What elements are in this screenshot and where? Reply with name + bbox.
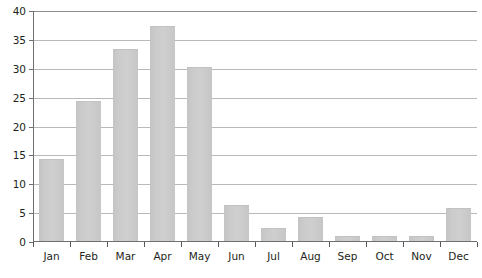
bar-chart: 0510152025303540 JanFebMarAprMayJunJulAu…	[0, 0, 482, 278]
y-axis-label-5: 5	[0, 208, 26, 219]
x-tick-10	[403, 242, 404, 247]
y-axis-label-40: 40	[0, 6, 26, 17]
x-tick-11	[440, 242, 441, 247]
y-axis-label-10: 10	[0, 179, 26, 190]
x-tick-1	[70, 242, 71, 247]
plot-area	[33, 11, 477, 242]
y-axis-label-0: 0	[0, 237, 26, 248]
x-axis: JanFebMarAprMayJunJulAugSepOctNovDec	[33, 242, 477, 278]
x-tick-4	[181, 242, 182, 247]
x-axis-label-jan: Jan	[43, 251, 59, 262]
x-tick-12	[477, 242, 478, 247]
x-axis-label-sep: Sep	[338, 251, 358, 262]
x-tick-3	[144, 242, 145, 247]
x-axis-label-oct: Oct	[375, 251, 393, 262]
x-tick-6	[255, 242, 256, 247]
x-tick-0	[33, 242, 34, 247]
y-axis-label-25: 25	[0, 93, 26, 104]
y-axis-label-20: 20	[0, 122, 26, 133]
x-axis-label-aug: Aug	[300, 251, 321, 262]
y-axis-line	[33, 11, 34, 242]
x-tick-7	[292, 242, 293, 247]
x-axis-label-jun: Jun	[228, 251, 244, 262]
x-tick-2	[107, 242, 108, 247]
x-axis-label-jul: Jul	[267, 251, 280, 262]
axis-lines	[33, 11, 477, 242]
y-axis-label-35: 35	[0, 35, 26, 46]
x-tick-8	[329, 242, 330, 247]
x-axis-label-may: May	[189, 251, 211, 262]
x-tick-5	[218, 242, 219, 247]
x-axis-label-feb: Feb	[79, 251, 98, 262]
x-axis-label-dec: Dec	[448, 251, 468, 262]
x-axis-label-mar: Mar	[116, 251, 136, 262]
y-axis: 0510152025303540	[0, 0, 33, 278]
x-axis-label-nov: Nov	[411, 251, 432, 262]
y-axis-label-15: 15	[0, 150, 26, 161]
y-axis-label-30: 30	[0, 64, 26, 75]
x-tick-9	[366, 242, 367, 247]
x-axis-label-apr: Apr	[153, 251, 171, 262]
